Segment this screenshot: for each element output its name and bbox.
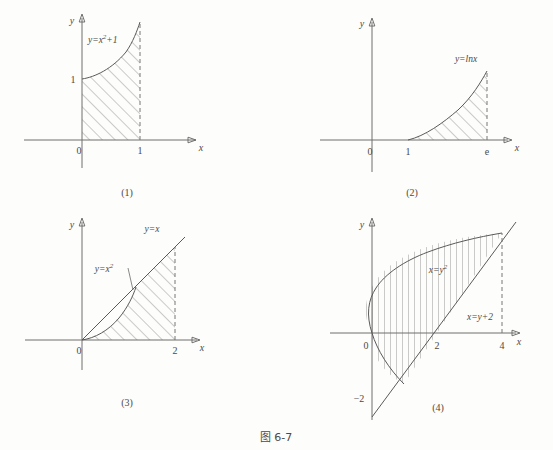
panel-2-tick-x-0: 0 [368, 146, 373, 157]
panel-3-x-axis-label: x [199, 342, 205, 353]
panel-1-shaded-region [70, 10, 160, 155]
panel-4-y-axis-label: y [359, 219, 365, 230]
panel-4-tick-y-neg2: −2 [354, 393, 365, 404]
panel-4-shaded-region [360, 228, 510, 390]
panel-1-curve-label: y=x2+1 [87, 33, 118, 45]
panel-1-y-axis-label: y [69, 15, 75, 26]
figure-container: y x 0 1 1 y=x2+1 (1) y x 0 1 e y=l [0, 0, 553, 450]
panel-3-number: (3) [121, 397, 133, 409]
panel-3-parabola-label-leader [128, 268, 133, 290]
panel-2-curve-label: y=lnx [454, 54, 478, 64]
panel-4-x-axis-label: x [516, 336, 522, 347]
panel-2: y x 0 1 e y=lnx (2) [320, 18, 520, 199]
panel-3-parabola-label: y=x2 [94, 262, 114, 274]
panel-4-tick-x-4: 4 [500, 340, 505, 351]
panel-4-tick-x-0: 0 [364, 340, 369, 351]
panel-1-tick-y-1: 1 [71, 74, 76, 85]
panel-2-shaded-region [400, 60, 500, 150]
figure-svg: y x 0 1 1 y=x2+1 (1) y x 0 1 e y=l [0, 0, 553, 450]
panel-2-number: (2) [406, 187, 418, 199]
panel-2-tick-x-1: 1 [406, 146, 411, 157]
panel-4-number: (4) [432, 402, 444, 414]
panel-3-tick-x-0: 0 [77, 345, 82, 356]
figure-caption: 图 6-7 [260, 431, 292, 444]
panel-2-x-axis-label: x [514, 142, 520, 153]
panel-3: y x 0 2 y=x y=x2 (3) [25, 218, 205, 409]
panel-1-x-axis-label: x [198, 142, 204, 153]
panel-4-line-label: x=y+2 [466, 312, 493, 322]
panel-1-number: (1) [121, 187, 133, 199]
panel-3-line-label: y=x [144, 224, 161, 234]
panel-1-tick-x-0: 0 [77, 145, 82, 156]
panel-2-tick-x-e: e [485, 146, 490, 157]
panel-1-tick-x-1: 1 [138, 145, 143, 156]
panel-4-tick-x-2: 2 [435, 340, 440, 351]
panel-3-tick-x-2: 2 [173, 345, 178, 356]
panel-3-y-axis-label: y [69, 219, 75, 230]
panel-1: y x 0 1 1 y=x2+1 (1) [24, 10, 204, 199]
panel-4: y x 0 2 4 −2 x=y2 x=y+2 (4) [330, 218, 522, 420]
panel-2-y-axis-label: y [359, 18, 365, 29]
